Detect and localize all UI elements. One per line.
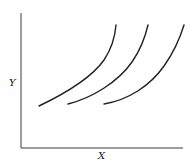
curve-1 bbox=[39, 25, 116, 106]
y-axis-label: Y bbox=[9, 77, 17, 88]
x-axis-label: X bbox=[97, 150, 106, 161]
diagram-canvas: Y X bbox=[0, 0, 192, 164]
